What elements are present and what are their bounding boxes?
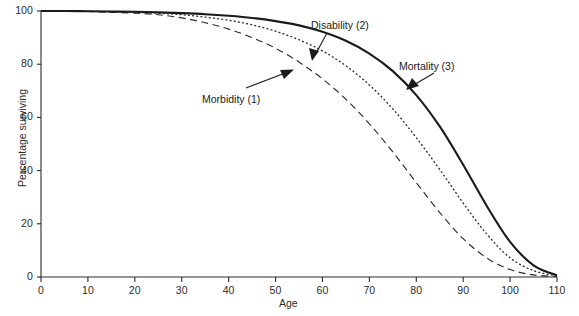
x-tick-label: 0 <box>21 284 61 296</box>
x-axis-ticks <box>41 277 557 282</box>
annotation-morbidity: Morbidity (1) <box>202 93 260 105</box>
leader-morbidity <box>246 70 294 89</box>
x-tick-label: 60 <box>302 284 342 296</box>
axes <box>37 11 557 282</box>
annotation-disability: Disability (2) <box>311 19 369 31</box>
plot-area <box>0 0 579 316</box>
x-axis-title: Age <box>279 297 298 309</box>
survival-curves-chart: 020406080100 0102030405060708090100110 P… <box>0 0 579 316</box>
curve-morbidity <box>41 11 557 277</box>
annotation-mortality: Mortality (3) <box>399 60 454 72</box>
x-tick-label: 110 <box>537 284 577 296</box>
y-axis-ticks <box>37 11 41 277</box>
x-tick-label: 100 <box>490 284 530 296</box>
y-tick-label: 100 <box>0 4 33 16</box>
x-tick-label: 30 <box>162 284 202 296</box>
y-tick-label: 20 <box>0 217 33 229</box>
y-tick-label: 0 <box>0 270 33 282</box>
y-tick-label: 80 <box>0 57 33 69</box>
curve-mortality <box>41 11 557 275</box>
x-tick-label: 80 <box>396 284 436 296</box>
x-tick-label: 40 <box>209 284 249 296</box>
data-curves <box>41 11 557 277</box>
x-tick-label: 70 <box>349 284 389 296</box>
x-tick-label: 90 <box>443 284 483 296</box>
curve-disability <box>41 11 557 276</box>
y-axis-title: Percentage surviving <box>16 88 28 188</box>
leader-disability <box>309 33 327 61</box>
x-tick-label: 50 <box>256 284 296 296</box>
leader-mortality <box>406 73 434 90</box>
x-tick-label: 10 <box>68 284 108 296</box>
x-tick-label: 20 <box>115 284 155 296</box>
